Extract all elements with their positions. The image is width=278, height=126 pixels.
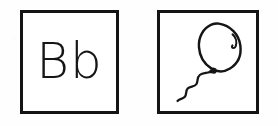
balloon-illustration: balloon <box>160 13 256 111</box>
letter-card[interactable]: Bb <box>20 10 119 114</box>
balloon-highlight-icon <box>232 34 236 48</box>
picture-card[interactable]: balloon <box>157 10 259 114</box>
letter-pair-text: Bb <box>23 36 116 86</box>
balloon-string-icon <box>178 72 210 101</box>
worksheet-canvas: Bb balloon <box>0 0 278 126</box>
